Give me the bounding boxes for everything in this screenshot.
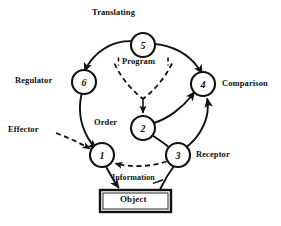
edge-program-right-branch — [143, 64, 172, 100]
node-3-label: 3 — [175, 150, 181, 161]
node-6[interactable]: 6 — [72, 70, 96, 94]
edge-3-to-4 — [187, 99, 208, 147]
node-4-label: 4 — [200, 79, 206, 90]
edge-object-to-3 — [161, 166, 175, 189]
edge-2-to-3 — [153, 136, 168, 147]
label-information: Information — [112, 174, 155, 182]
edge-5-to-4 — [155, 44, 202, 73]
diagram-canvas: 5 6 4 2 1 3 Translating Regulator Compar… — [0, 0, 281, 226]
label-order: Order — [94, 118, 117, 127]
node-2[interactable]: 2 — [131, 116, 155, 140]
label-program: Program — [122, 57, 155, 66]
edge-effector-to-1 — [56, 133, 90, 149]
label-comparison: Comparison — [222, 79, 268, 88]
label-receptor: Receptor — [196, 150, 230, 159]
node-6-label: 6 — [82, 77, 87, 88]
node-3[interactable]: 3 — [166, 143, 190, 167]
node-2-label: 2 — [140, 123, 146, 134]
node-4[interactable]: 4 — [191, 72, 215, 96]
label-effector: Effector — [8, 125, 39, 134]
node-5-label: 5 — [141, 40, 146, 51]
node-1[interactable]: 1 — [90, 143, 114, 167]
label-regulator: Regulator — [15, 76, 52, 85]
edge-program-left-branch — [115, 64, 144, 100]
label-object: Object — [120, 195, 147, 204]
edge-3-to-1 — [116, 162, 167, 167]
node-5[interactable]: 5 — [131, 33, 155, 57]
label-translating: Translating — [92, 8, 135, 17]
edge-2-to-4 — [154, 92, 194, 123]
node-1-label: 1 — [100, 150, 105, 161]
diagram-graphics: 5 6 4 2 1 3 — [0, 0, 281, 226]
